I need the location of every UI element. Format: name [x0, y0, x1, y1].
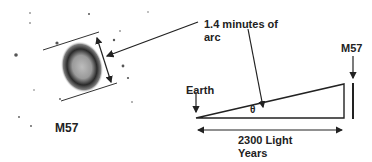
theta-symbol: θ [250, 104, 255, 116]
angle-label-line1: 1.4 minutes of [204, 18, 278, 30]
parallax-triangle [196, 84, 344, 118]
distance-label-line1: 2300 Light [238, 134, 292, 146]
object-label: M57 [55, 122, 78, 134]
angle-pointer-arrow [248, 29, 263, 107]
angle-label-line2: arc [204, 31, 221, 43]
pointer-arrow [107, 22, 198, 56]
diagram-canvas [0, 0, 372, 162]
distance-label-line2: Years [238, 147, 267, 159]
target-label: M57 [341, 42, 362, 54]
observer-label: Earth [186, 84, 214, 96]
